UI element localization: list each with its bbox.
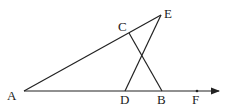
label-e: E bbox=[164, 6, 172, 21]
label-d: D bbox=[120, 92, 129, 107]
label-f: F bbox=[192, 92, 199, 107]
label-b: B bbox=[157, 92, 166, 107]
label-c: C bbox=[118, 19, 127, 34]
geometry-diagram: A C E D B F bbox=[0, 0, 225, 107]
segment-cb bbox=[129, 33, 162, 91]
label-a: A bbox=[7, 88, 17, 103]
